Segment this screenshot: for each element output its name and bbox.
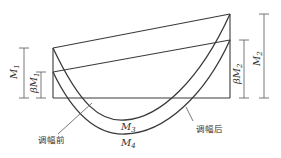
label-m1: M1 xyxy=(8,64,21,80)
label-before-adjust: 调幅前 xyxy=(38,135,65,145)
label-beta-m1: βM1 xyxy=(28,73,41,95)
chord-before-adjust xyxy=(53,14,230,48)
label-beta-m2: βM2 xyxy=(231,63,244,85)
chord-after-adjust xyxy=(53,40,230,72)
label-m3: M3 xyxy=(120,121,136,134)
label-after-adjust: 调幅后 xyxy=(196,124,223,134)
label-m2: M2 xyxy=(251,51,264,67)
label-m4: M4 xyxy=(120,137,136,150)
moment-curve-after-adjust xyxy=(53,40,230,134)
leader-after-adjust xyxy=(186,107,193,121)
moment-redistribution-diagram: M1 βM1 βM2 M2 M3 M4 调幅前 调幅后 xyxy=(0,0,281,158)
